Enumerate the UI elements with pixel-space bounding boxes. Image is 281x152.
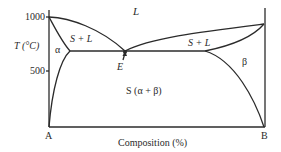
region-alpha-label: α xyxy=(55,45,60,55)
y-tick-1000: 1000 xyxy=(25,12,45,22)
x-axis-label: Composition (%) xyxy=(118,138,187,148)
y-axis-label: T (°C) xyxy=(14,41,39,51)
right-solvus-curve xyxy=(205,51,264,127)
x-end-b-label: B xyxy=(261,131,268,141)
region-beta-label: β xyxy=(242,57,247,67)
region-liquid-label: L xyxy=(133,6,139,17)
left-solvus-curve xyxy=(49,51,70,127)
region-right-s-plus-l-label: S + L xyxy=(188,38,210,48)
y-tick-500: 500 xyxy=(30,66,45,76)
x-end-a-label: A xyxy=(45,131,52,141)
region-left-s-plus-l-label: S + L xyxy=(70,34,92,44)
phase-diagram-plot xyxy=(0,0,281,152)
region-solid-label: S (α + β) xyxy=(126,86,162,96)
eutectic-point-label: E xyxy=(117,62,123,72)
